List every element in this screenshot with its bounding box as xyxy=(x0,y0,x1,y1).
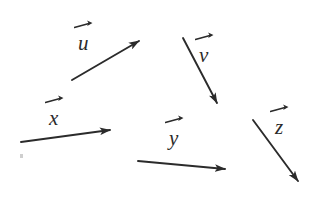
vector-arrow-y xyxy=(138,161,225,169)
vector-label-u: u xyxy=(78,33,89,54)
vector-label-x: x xyxy=(49,108,58,129)
vector-label-v: v xyxy=(199,45,208,66)
vector-label-x-text: x xyxy=(49,106,58,130)
vector-label-y-text: y xyxy=(169,126,178,150)
vector-label-z-text: z xyxy=(275,115,283,139)
vector-diagram-canvas: u v x y xyxy=(0,0,309,221)
vector-label-z: z xyxy=(275,117,283,138)
scan-artifact-speck xyxy=(20,154,23,158)
vector-arrows-group xyxy=(0,0,309,221)
vector-label-v-text: v xyxy=(199,43,208,67)
vector-arrow-x xyxy=(21,130,110,142)
vector-label-y: y xyxy=(169,128,178,149)
vector-label-u-text: u xyxy=(78,31,89,55)
